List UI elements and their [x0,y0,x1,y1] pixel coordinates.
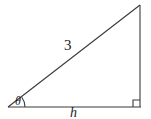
triangle-hypotenuse-line [8,5,140,107]
hypotenuse-label: 3 [64,38,72,53]
right-angle-marker-icon [133,100,140,107]
angle-arc-icon [22,97,25,107]
triangle-svg [0,0,151,119]
angle-theta-label: θ [15,95,21,107]
triangle-figure: 3 h θ [0,0,151,119]
base-label: h [70,106,77,119]
